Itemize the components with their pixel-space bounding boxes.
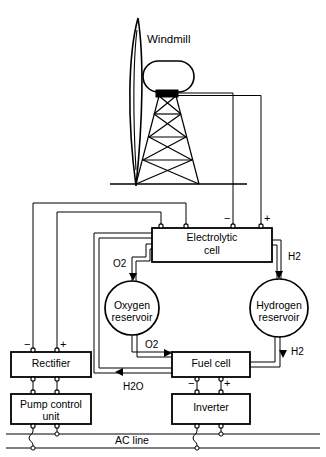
- h2-bottom-label: H2: [291, 347, 304, 358]
- rectifier-positive-sign: +: [60, 338, 66, 350]
- electrolytic-cell-positive-sign: +: [264, 212, 270, 224]
- oxygen-reservoir-label-line2: reservoir: [105, 312, 159, 323]
- windmill-nacelle: [143, 61, 194, 92]
- wire-rectifier-to-pump: [33, 381, 57, 392]
- rectifier-label: Rectifier: [11, 358, 91, 369]
- rectifier-negative-sign: −: [24, 338, 30, 350]
- windmill-label: Windmill: [147, 33, 190, 45]
- pipe-o2-cell-to-reservoir: [129, 244, 152, 281]
- hydrogen-reservoir-label-line1: Hydrogen: [250, 300, 308, 311]
- diagram-svg: [0, 0, 326, 457]
- pipe-h2-reservoir-to-fuelcell: [250, 336, 287, 367]
- fuel-cell-label: Fuel cell: [172, 358, 250, 369]
- hydrogen-reservoir-label-line2: reservoir: [250, 312, 308, 323]
- oxygen-reservoir-label-line1: Oxygen: [105, 300, 159, 311]
- inverter-label: Inverter: [172, 402, 250, 413]
- wire-fuelcell-to-inverter: [197, 381, 221, 392]
- wire-rect-neg-top-run: [33, 203, 186, 226]
- o2-bottom-label: O2: [145, 340, 158, 351]
- ac-line-label: AC line: [92, 435, 172, 446]
- electrolytic-cell-negative-sign: −: [224, 212, 230, 224]
- electrolytic-cell-label-line2: cell: [152, 245, 272, 256]
- o2-top-label: O2: [113, 259, 126, 270]
- pump-control-unit-label-line2: unit: [11, 411, 91, 422]
- windmill-rotor-blade: [130, 18, 142, 186]
- pump-control-unit-label-line1: Pump control: [11, 399, 91, 410]
- fuel-cell-negative-sign: −: [188, 377, 194, 389]
- fuel-cell-positive-sign: +: [224, 377, 230, 389]
- ac-drop-pump: [29, 428, 59, 450]
- h2-top-label: H2: [288, 252, 301, 263]
- windmill-tower: [136, 96, 199, 184]
- pipe-h2-cell-to-reservoir: [272, 240, 283, 281]
- h2o-label: H2O: [123, 382, 144, 393]
- ac-drop-inverter: [193, 428, 223, 450]
- wire-rect-pos-top-run: [57, 212, 161, 226]
- electrolytic-cell-label-line1: Electrolytic: [152, 232, 272, 243]
- diagram-canvas: Windmill Electrolytic cell Oxygen reserv…: [0, 0, 326, 457]
